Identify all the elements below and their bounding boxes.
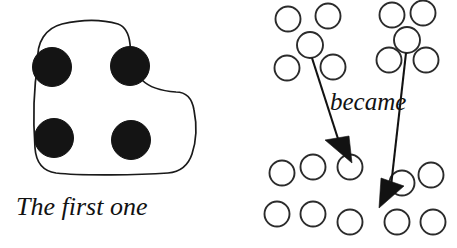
figure-canvas: The first one became (0, 0, 457, 248)
open-circle (276, 7, 301, 32)
open-circle (270, 161, 295, 186)
open-circle (421, 210, 446, 235)
caption-the-first-one: The first one (16, 192, 147, 221)
open-circle (380, 3, 405, 28)
open-circle (385, 210, 410, 235)
figure-illustration: The first one became (0, 0, 457, 248)
open-circle (414, 48, 439, 73)
filled-disc-top-right (111, 47, 150, 86)
open-circle (316, 4, 341, 29)
open-circle (377, 48, 402, 73)
open-circle (321, 55, 346, 80)
open-circle (411, 1, 436, 26)
open-circle (301, 202, 326, 227)
open-circle (275, 56, 300, 81)
filled-disc-top-left (33, 48, 72, 87)
open-circle (394, 27, 420, 53)
caption-became: became (330, 88, 406, 115)
open-circle (265, 202, 290, 227)
open-circle (301, 155, 326, 180)
filled-disc-bottom-right (112, 121, 151, 160)
filled-disc-bottom-left (35, 119, 74, 158)
open-circle (338, 210, 363, 235)
open-circle (297, 32, 323, 58)
open-circle (419, 163, 444, 188)
